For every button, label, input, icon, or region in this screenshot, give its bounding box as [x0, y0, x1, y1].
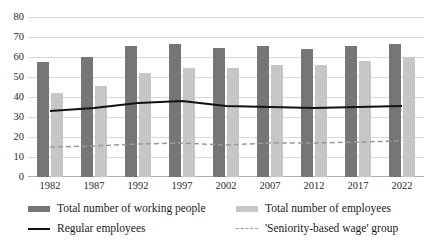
legend-item-seniority-based-wage-group: 'Seniority-based wage' group: [236, 219, 398, 238]
y-axis-tick-label: 20: [0, 132, 24, 142]
y-axis-labels: 01020304050607080: [0, 17, 24, 177]
legend-label: Total number of working people: [57, 202, 206, 215]
solid-line-swatch-icon: [28, 228, 50, 230]
bar-light-swatch-icon: [236, 206, 258, 212]
x-axis-tick-label: 1982: [28, 179, 72, 193]
chart-container: 01020304050607080 1982198719921997200220…: [0, 0, 430, 241]
y-axis-tick-label: 80: [0, 12, 24, 22]
legend-item-total-working-people: Total number of working people: [28, 199, 206, 218]
legend-label: 'Seniority-based wage' group: [265, 222, 398, 235]
x-axis-tick-label: 2002: [204, 179, 248, 193]
legend-label: Total number of employees: [265, 202, 391, 215]
y-axis-tick-label: 30: [0, 112, 24, 122]
chart-legend: Total number of working people Total num…: [28, 199, 426, 239]
dashed-line-swatch-icon: [236, 228, 258, 229]
x-axis-tick-label: 1997: [160, 179, 204, 193]
plot-area: [28, 17, 424, 177]
legend-row-1: Total number of working people Total num…: [28, 199, 426, 218]
solid-line-series: [50, 101, 402, 111]
x-axis-tick-label: 2007: [248, 179, 292, 193]
x-axis-tick-label: 1992: [116, 179, 160, 193]
line-series-layer: [28, 17, 424, 177]
x-axis-tick-label: 2022: [380, 179, 424, 193]
y-axis-tick-label: 10: [0, 152, 24, 162]
y-axis-tick-label: 0: [0, 172, 24, 182]
x-axis-tick-label: 1987: [72, 179, 116, 193]
x-axis-tick-label: 2017: [336, 179, 380, 193]
x-axis-labels: 198219871992199720022007201220172022: [28, 179, 424, 195]
y-axis-tick-label: 60: [0, 52, 24, 62]
dashed-line-series: [50, 141, 402, 147]
legend-item-regular-employees: Regular employees: [28, 219, 145, 238]
legend-item-total-employees: Total number of employees: [236, 199, 391, 218]
y-axis-tick-label: 70: [0, 32, 24, 42]
legend-row-2: Regular employees 'Seniority-based wage'…: [28, 219, 426, 238]
y-axis-tick-label: 50: [0, 72, 24, 82]
x-axis-tick-label: 2012: [292, 179, 336, 193]
bar-dark-swatch-icon: [28, 206, 50, 212]
legend-label: Regular employees: [57, 222, 145, 235]
y-axis-tick-label: 40: [0, 92, 24, 102]
